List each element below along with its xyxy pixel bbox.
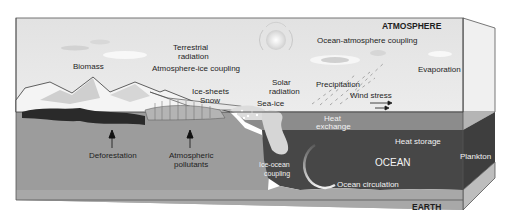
label-plankton: Plankton (460, 152, 491, 161)
climate-diagram: ATMOSPHERE Ocean-atmosphere coupling Eva… (0, 0, 510, 223)
label-ocean-atmosphere-coupling: Ocean-atmosphere coupling (317, 36, 418, 45)
label-solar: Solar (272, 78, 291, 87)
label-atmospheric: Atmospheric (169, 151, 213, 160)
side-face-atmosphere (463, 18, 495, 112)
label-wind-stress: Wind stress (350, 91, 392, 100)
label-ice-ocean-coupling: coupling (264, 169, 290, 178)
label-biomass: Biomass (73, 62, 104, 71)
label-ice-sheets: Ice-sheets (192, 87, 229, 96)
label-ice-ocean: Ice-ocean (259, 160, 290, 169)
label-sea-ice: Sea-ice (257, 99, 284, 108)
label-atmospheric-pollutants: pollutants (174, 160, 208, 169)
label-atmosphere-ice-coupling: Atmosphere-ice coupling (152, 64, 240, 73)
diagram-graphic (0, 0, 510, 223)
label-heat-exchange: exchange (316, 122, 351, 131)
label-heat-storage: Heat storage (395, 137, 441, 146)
label-terrestrial-radiation: radiation (178, 52, 209, 61)
label-evaporation: Evaporation (418, 65, 461, 74)
label-solar-radiation: radiation (269, 87, 300, 96)
label-deforestation: Deforestation (89, 151, 137, 160)
label-precipitation: Precipitation (316, 80, 360, 89)
label-ocean: OCEAN (375, 158, 411, 167)
label-ocean-circulation: Ocean circulation (337, 180, 399, 189)
land-region (16, 112, 270, 200)
label-atmosphere: ATMOSPHERE (382, 22, 441, 31)
label-terrestrial: Terrestrial (173, 43, 208, 52)
label-snow: Snow (200, 96, 220, 105)
label-earth: EARTH (412, 203, 441, 212)
